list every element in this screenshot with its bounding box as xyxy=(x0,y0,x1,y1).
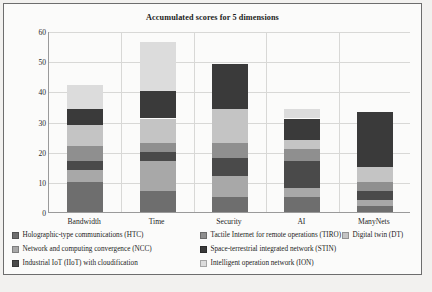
bar-segment[interactable] xyxy=(212,143,248,158)
x-tick-label: AI xyxy=(297,217,305,226)
figure-frame: Accumulated scores for 5 dimensions 0102… xyxy=(3,3,422,275)
legend-label: Network and computing convergence (NCC) xyxy=(23,246,152,253)
bar-segment[interactable] xyxy=(212,158,248,176)
bar-segment[interactable] xyxy=(67,161,103,170)
bar-column[interactable] xyxy=(140,32,176,212)
legend-swatch xyxy=(200,232,207,239)
bar-segment[interactable] xyxy=(67,125,103,146)
legend-item[interactable]: Industrial IoT (IIoT) with cloudificatio… xyxy=(12,260,138,267)
legend-swatch xyxy=(12,232,19,239)
legend-item[interactable]: Intelligent operation network (ION) xyxy=(200,260,314,267)
legend-label: Industrial IoT (IIoT) with cloudificatio… xyxy=(23,260,138,267)
legend-label: Intelligent operation network (ION) xyxy=(211,260,314,267)
bar-segment[interactable] xyxy=(357,191,393,200)
bar-segment[interactable] xyxy=(357,206,393,212)
bar-segment[interactable] xyxy=(212,64,248,109)
legend-item[interactable]: Tactile Internet for remote operations (… xyxy=(200,232,341,239)
bar-stack xyxy=(284,109,320,212)
x-tick-label: Bandwidth xyxy=(68,217,101,226)
legend-label: Space-terrestrial integrated network (ST… xyxy=(211,246,337,253)
plot-area xyxy=(48,32,410,213)
bar-segment[interactable] xyxy=(357,167,393,182)
bar-column[interactable] xyxy=(284,32,320,212)
bar-segment[interactable] xyxy=(212,109,248,142)
stacked-bar-chart: Accumulated scores for 5 dimensions 0102… xyxy=(4,4,421,274)
legend-label: Tactile Internet for remote operations (… xyxy=(211,232,342,239)
bar-segment[interactable] xyxy=(357,112,393,166)
legend-label: Digital twin (DT) xyxy=(353,232,404,239)
bar-segment[interactable] xyxy=(140,143,176,152)
legend-swatch xyxy=(200,260,207,267)
bar-segment[interactable] xyxy=(284,197,320,212)
bar-segment[interactable] xyxy=(284,109,320,118)
plot-frame xyxy=(48,32,410,213)
bar-segment[interactable] xyxy=(140,152,176,161)
bar-segment[interactable] xyxy=(140,119,176,143)
bar-segment[interactable] xyxy=(140,191,176,212)
y-tick-label: 40 xyxy=(12,88,46,97)
bar-segment[interactable] xyxy=(67,182,103,212)
legend-item[interactable]: Network and computing convergence (NCC) xyxy=(12,246,152,253)
bar-segment[interactable] xyxy=(284,188,320,197)
bar-segment[interactable] xyxy=(67,85,103,109)
x-tick-label: ManyNets xyxy=(358,217,390,226)
bar-segment[interactable] xyxy=(357,182,393,191)
chart-title: Accumulated scores for 5 dimensions xyxy=(4,13,421,22)
bar-stack xyxy=(357,112,393,212)
y-tick-label: 10 xyxy=(12,178,46,187)
bar-column[interactable] xyxy=(212,32,248,212)
y-tick-label: 30 xyxy=(12,118,46,127)
legend-swatch xyxy=(200,246,207,253)
bar-segment[interactable] xyxy=(140,91,176,118)
bar-segment[interactable] xyxy=(67,170,103,182)
legend-item[interactable]: Holographic-type communications (HTC) xyxy=(12,232,143,239)
bar-segment[interactable] xyxy=(284,161,320,188)
bar-segment[interactable] xyxy=(212,197,248,212)
bar-stack xyxy=(212,64,248,212)
bar-column[interactable] xyxy=(67,32,103,212)
screenshot-page: Accumulated scores for 5 dimensions 0102… xyxy=(0,0,432,292)
bar-segment[interactable] xyxy=(140,42,176,92)
legend-label: Holographic-type communications (HTC) xyxy=(23,232,144,239)
bar-segment[interactable] xyxy=(357,200,393,206)
bar-segment[interactable] xyxy=(284,140,320,149)
x-tick-label: Security xyxy=(216,217,241,226)
legend-swatch xyxy=(12,260,19,267)
bar-segment[interactable] xyxy=(140,161,176,191)
bars-layer xyxy=(49,32,410,212)
bar-segment[interactable] xyxy=(67,146,103,161)
bar-segment[interactable] xyxy=(284,119,320,140)
bar-segment[interactable] xyxy=(212,176,248,197)
bar-stack xyxy=(67,85,103,212)
bar-segment[interactable] xyxy=(67,109,103,124)
legend-swatch xyxy=(12,246,19,253)
bar-column[interactable] xyxy=(357,32,393,212)
legend-swatch xyxy=(342,232,349,239)
x-tick-label: Time xyxy=(149,217,165,226)
bar-segment[interactable] xyxy=(284,149,320,161)
y-tick-label: 20 xyxy=(12,148,46,157)
legend-item[interactable]: Space-terrestrial integrated network (ST… xyxy=(200,246,336,253)
y-axis: 0102030405060 xyxy=(8,32,46,213)
y-tick-label: 60 xyxy=(12,28,46,37)
bar-stack xyxy=(140,42,176,212)
y-tick-label: 0 xyxy=(12,209,46,218)
chart-legend: Holographic-type communications (HTC)Tac… xyxy=(12,232,416,274)
y-tick-label: 50 xyxy=(12,58,46,67)
legend-item[interactable]: Digital twin (DT) xyxy=(342,232,403,239)
